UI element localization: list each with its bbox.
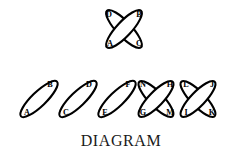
label-row-A: A [24,108,30,117]
group-link-ab: B A [16,76,62,121]
diagram-canvas: D B A C B A D C F E N H [0,0,244,156]
label-row-L: L [183,80,189,89]
label-row-F: F [125,80,130,89]
figure-caption: DIAGRAM [81,132,162,149]
link-cd-outline [55,76,101,121]
diagram-figure: D B A C B A D C F E N H [0,0,244,156]
label-row-H: H [167,80,174,89]
label-top-A: A [107,39,113,48]
label-row-D: D [86,80,92,89]
label-row-J: J [210,80,214,89]
group-top-crossed-pair: D B A C [102,6,147,53]
label-top-B: B [136,10,142,19]
label-row-M: M [166,108,174,117]
link-ef-outline [94,76,140,121]
group-link-ef: F E [94,76,140,121]
label-row-B: B [47,80,53,89]
group-crossed-pair-ghmn: N H G M [134,77,178,122]
label-row-K: K [209,108,216,117]
label-row-E: E [102,108,108,117]
label-top-D: D [106,10,112,19]
label-row-G: G [140,108,147,117]
label-row-C: C [63,108,69,117]
group-crossed-pair-ijkl: L J I K [176,77,220,122]
link-ab-outline [16,76,62,121]
label-top-C: C [136,39,142,48]
group-link-cd: D C [55,76,101,121]
label-row-N: N [140,80,146,89]
label-row-I: I [184,108,187,117]
